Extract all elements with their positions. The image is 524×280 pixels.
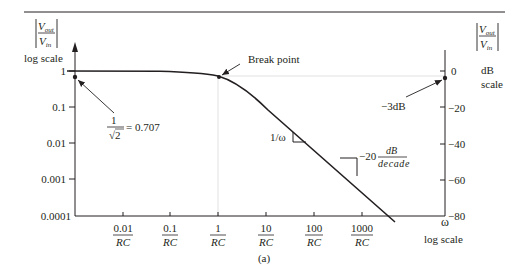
svg-text:RC: RC bbox=[115, 236, 131, 248]
svg-text:1: 1 bbox=[111, 114, 117, 126]
svg-text:RC: RC bbox=[162, 236, 178, 248]
right-tick-minus40: −40 bbox=[448, 138, 466, 150]
right-3db-dot bbox=[443, 76, 447, 80]
svg-text:100: 100 bbox=[306, 222, 323, 234]
svg-text:−20: −20 bbox=[359, 150, 377, 162]
svg-text:√2: √2 bbox=[109, 129, 121, 141]
x-axis-omega: ω bbox=[441, 215, 449, 229]
left-tick-1: 1 bbox=[61, 65, 67, 77]
x-tick-label-100: 100 RC bbox=[305, 222, 323, 248]
left-tick-0.001: 0.001 bbox=[41, 173, 66, 185]
left-707-annotation: 1 √2 = 0.707 bbox=[107, 114, 160, 141]
break-point-label: Break point bbox=[248, 53, 300, 65]
left-tick-0.0001: 0.0001 bbox=[41, 210, 71, 222]
right-tick-minus20: −20 bbox=[448, 102, 466, 114]
right-tick-minus80: −80 bbox=[448, 210, 466, 222]
svg-text:Vin: Vin bbox=[480, 38, 493, 52]
x-ticks bbox=[123, 212, 362, 216]
bode-plot: Vout Vin log scale 1 0.1 0.01 0.001 0.00… bbox=[0, 0, 524, 280]
svg-text:Vout: Vout bbox=[38, 20, 55, 34]
right-axis-scale-label: scale bbox=[481, 78, 503, 90]
svg-text:RC: RC bbox=[354, 236, 370, 248]
svg-text:RC: RC bbox=[306, 236, 322, 248]
svg-text:1000: 1000 bbox=[351, 222, 374, 234]
break-point-dot bbox=[217, 75, 221, 79]
right-ticks bbox=[440, 71, 445, 180]
x-tick-label-10: 10 RC bbox=[258, 222, 274, 248]
slope-db-per-decade: −20 dB decade bbox=[359, 145, 410, 169]
left-tick-0.01: 0.01 bbox=[47, 137, 66, 149]
right-3db-arrow bbox=[406, 80, 442, 97]
x-tick-label-1: 1 RC bbox=[210, 222, 226, 248]
svg-text:10: 10 bbox=[261, 222, 273, 234]
left-707-arrow bbox=[78, 80, 114, 113]
left-707-dot bbox=[73, 75, 77, 79]
right-axis-db-label: dB bbox=[481, 64, 494, 76]
x-tick-label-1000: 1000 RC bbox=[351, 222, 374, 248]
response-curve bbox=[67, 71, 395, 222]
minus-3db-label: −3dB bbox=[381, 100, 406, 112]
svg-text:RC: RC bbox=[258, 236, 274, 248]
left-axis-ratio-label: Vout Vin bbox=[36, 19, 57, 49]
figure-caption: (a) bbox=[258, 252, 271, 265]
svg-text:Vin: Vin bbox=[39, 35, 52, 49]
right-axis-ratio-label: Vout Vin bbox=[477, 23, 498, 52]
x-tick-label-0.1: 0.1 RC bbox=[162, 222, 178, 248]
svg-text:= 0.707: = 0.707 bbox=[126, 121, 160, 133]
right-tick-minus60: −60 bbox=[448, 174, 466, 186]
right-tick-0: 0 bbox=[451, 65, 457, 77]
left-ticks bbox=[69, 71, 75, 179]
svg-text:decade: decade bbox=[378, 158, 410, 169]
x-axis-scale-label: log scale bbox=[424, 233, 463, 245]
svg-text:dB: dB bbox=[386, 145, 397, 156]
svg-text:RC: RC bbox=[210, 236, 226, 248]
svg-text:1: 1 bbox=[215, 222, 221, 234]
left-axis-arrow-icon bbox=[72, 42, 78, 52]
break-point-arrow bbox=[222, 64, 240, 75]
svg-text:Vout: Vout bbox=[479, 23, 496, 37]
slope-triangle-right bbox=[340, 158, 357, 176]
left-axis-scale-label: log scale bbox=[24, 52, 63, 64]
slope-1-over-omega: 1/ω bbox=[270, 131, 286, 143]
left-tick-0.1: 0.1 bbox=[52, 101, 66, 113]
svg-text:0.1: 0.1 bbox=[163, 222, 177, 234]
svg-text:0.01: 0.01 bbox=[113, 222, 132, 234]
x-tick-label-0.01: 0.01 RC bbox=[113, 222, 133, 248]
